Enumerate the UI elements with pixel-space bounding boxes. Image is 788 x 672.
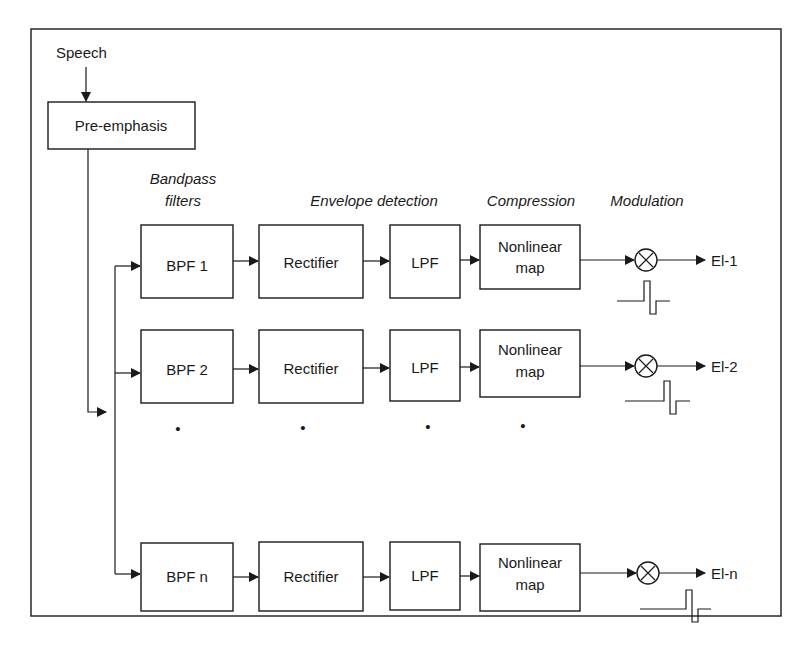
nonlinear-map-1-block: [480, 225, 580, 289]
header-bandpass-1: Bandpass: [150, 170, 217, 187]
cochlear-implant-block-diagram: Speech Pre-emphasis Bandpass filters Env…: [0, 0, 788, 672]
ellipsis-map: •: [520, 417, 525, 434]
ellipsis-rectifier: •: [300, 419, 305, 436]
lpf-n-label: LPF: [411, 567, 439, 584]
nonlinear-map-2-label-1: Nonlinear: [498, 341, 562, 358]
bpf-1-label: BPF 1: [166, 257, 208, 274]
speech-label: Speech: [56, 44, 107, 61]
bpf-2-label: BPF 2: [166, 361, 208, 378]
lpf-1-label: LPF: [411, 254, 439, 271]
nonlinear-map-2-label-2: map: [515, 363, 544, 380]
output-n-label: El-n: [711, 565, 738, 582]
preemphasis-label: Pre-emphasis: [75, 117, 168, 134]
nonlinear-map-1-label-2: map: [515, 259, 544, 276]
header-modulation: Modulation: [610, 192, 683, 209]
nonlinear-map-n-label-1: Nonlinear: [498, 554, 562, 571]
nonlinear-map-n-label-2: map: [515, 576, 544, 593]
ellipsis-lpf: •: [425, 418, 430, 435]
lpf-2-label: LPF: [411, 359, 439, 376]
nonlinear-map-1-label-1: Nonlinear: [498, 238, 562, 255]
header-envelope: Envelope detection: [310, 192, 438, 209]
output-2-label: El-2: [711, 358, 738, 375]
output-1-label: El-1: [711, 252, 738, 269]
bpf-n-label: BPF n: [166, 568, 208, 585]
rectifier-1-label: Rectifier: [283, 254, 338, 271]
rectifier-2-label: Rectifier: [283, 360, 338, 377]
header-bandpass-2: filters: [165, 192, 201, 209]
rectifier-n-label: Rectifier: [283, 568, 338, 585]
header-compression: Compression: [487, 192, 575, 209]
ellipsis-bpf: •: [175, 420, 180, 437]
